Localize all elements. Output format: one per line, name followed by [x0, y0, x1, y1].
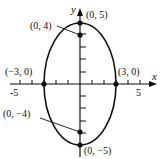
point-0-5	[77, 20, 82, 25]
leader-line-0-neg4	[40, 118, 80, 132]
label-0-4: (0, 4)	[30, 20, 52, 32]
x-axis-label: x	[151, 70, 157, 82]
label-3-0: (3, 0)	[118, 66, 140, 78]
y-axis-arrow-icon	[77, 8, 83, 16]
label-neg3-0: (−3, 0)	[5, 66, 32, 78]
ellipse-diagram: y x -5 5 (0, 5) (0, 4) (−3, 0) (3, 0) (0…	[0, 0, 161, 159]
point-3-0	[113, 81, 118, 86]
tick-label-5: 5	[136, 87, 141, 98]
tick-label-neg5: -5	[10, 87, 18, 98]
point-neg3-0	[41, 81, 46, 86]
label-0-5: (0, 5)	[86, 9, 108, 21]
point-0-neg5	[77, 142, 82, 147]
label-0-neg5: (0, −5)	[84, 145, 111, 157]
label-0-neg4: (0, −4)	[3, 108, 30, 120]
y-axis-label: y	[70, 3, 76, 15]
